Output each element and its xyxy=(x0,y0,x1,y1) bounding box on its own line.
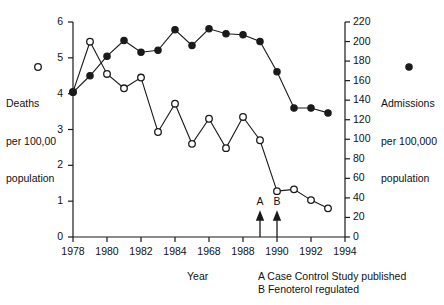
y-right-tick-label-1: 20 xyxy=(353,210,365,222)
legend-left-label-line-1: Deaths xyxy=(6,97,56,110)
y-right-tick-label-3: 60 xyxy=(353,171,365,183)
x-tick-label-6: 1990 xyxy=(260,245,294,257)
chart-annotation-arrows xyxy=(257,212,280,237)
data-point-s1-13 xyxy=(291,186,298,193)
annotation-label-b: B xyxy=(267,195,287,207)
legend-left-label-line-2: per 100,00 xyxy=(6,135,56,148)
data-point-s2-15 xyxy=(325,110,331,116)
x-tick-label-3: 1984 xyxy=(158,245,192,257)
data-point-s1-5 xyxy=(155,129,162,136)
y-right-tick-label-2: 40 xyxy=(353,191,365,203)
x-tick-label-2: 1982 xyxy=(124,245,158,257)
data-point-s2-13 xyxy=(291,105,297,111)
y-left-tick-label-0: 0 xyxy=(47,230,63,242)
y-right-tick-label-11: 220 xyxy=(353,15,371,27)
x-tick-label-7: 1992 xyxy=(294,245,328,257)
x-tick-label-0: 1978 xyxy=(56,245,90,257)
data-point-s2-14 xyxy=(308,105,314,111)
data-point-s2-1 xyxy=(87,73,93,79)
legend-left-label-line-3: population xyxy=(6,172,56,185)
data-point-s1-9 xyxy=(223,145,230,152)
y-right-tick-label-7: 140 xyxy=(353,93,371,105)
data-point-s2-0 xyxy=(70,89,76,95)
legend-right-label-line-3: population xyxy=(381,172,437,185)
x-axis-title: Year xyxy=(187,270,208,283)
data-point-s1-14 xyxy=(308,197,315,204)
x-tick-label-8: 1994 xyxy=(328,245,362,257)
legend-right-label-line-1: Admissions xyxy=(381,97,437,110)
data-point-s2-9 xyxy=(223,31,229,37)
data-point-s2-6 xyxy=(172,27,178,33)
y-right-tick-label-6: 120 xyxy=(353,113,371,125)
y-right-tick-label-9: 180 xyxy=(353,54,371,66)
footnote-a: A Case Control Study published xyxy=(258,270,406,283)
annotation-arrow-a xyxy=(257,212,263,237)
data-point-s1-1 xyxy=(87,38,94,45)
x-tick-label-1: 1980 xyxy=(90,245,124,257)
data-point-s2-4 xyxy=(138,49,144,55)
data-point-s1-8 xyxy=(206,115,213,122)
data-point-s1-15 xyxy=(325,205,332,212)
series-1 xyxy=(70,38,332,211)
legend-left-open-circle-icon xyxy=(35,64,42,71)
footnote-b: B Fenoterol regulated xyxy=(258,283,359,296)
y-left-tick-label-5: 5 xyxy=(47,51,63,63)
legend-right-label-line-2: per 100,000 xyxy=(381,135,437,148)
data-point-s1-11 xyxy=(257,137,264,144)
y-right-tick-label-5: 100 xyxy=(353,132,371,144)
x-tick-label-4: 1968 xyxy=(192,245,226,257)
data-point-s2-7 xyxy=(189,42,195,48)
data-point-s1-3 xyxy=(121,85,128,92)
chart-plot-area xyxy=(0,0,444,305)
data-point-s2-11 xyxy=(257,38,263,44)
y-right-tick-label-4: 80 xyxy=(353,152,365,164)
data-point-s2-5 xyxy=(155,47,161,53)
data-point-s1-12 xyxy=(274,188,281,195)
y-right-tick-label-8: 160 xyxy=(353,74,371,86)
data-point-s2-3 xyxy=(121,37,127,43)
data-point-s2-10 xyxy=(240,32,246,38)
annotation-arrow-b xyxy=(274,212,280,237)
x-tick-label-5: 1988 xyxy=(226,245,260,257)
data-point-s1-7 xyxy=(189,141,196,148)
data-point-s2-12 xyxy=(274,69,280,75)
y-left-tick-label-6: 6 xyxy=(47,15,63,27)
chart-figure: 197819801982198419681988199019921994 012… xyxy=(0,0,444,305)
legend-left: Deaths per 100,00 population xyxy=(6,72,56,210)
data-point-s2-8 xyxy=(206,26,212,32)
data-point-s1-10 xyxy=(240,114,247,121)
y-right-tick-label-0: 0 xyxy=(353,230,359,242)
legend-right: Admissions per 100,000 population xyxy=(381,72,437,210)
data-point-s1-2 xyxy=(104,71,111,78)
data-point-s2-2 xyxy=(104,53,110,59)
y-right-tick-label-10: 200 xyxy=(353,35,371,47)
legend-right-filled-circle-icon xyxy=(406,64,412,70)
chart-series-layer xyxy=(70,26,332,212)
data-point-s1-4 xyxy=(138,74,145,81)
data-point-s1-6 xyxy=(172,100,179,107)
